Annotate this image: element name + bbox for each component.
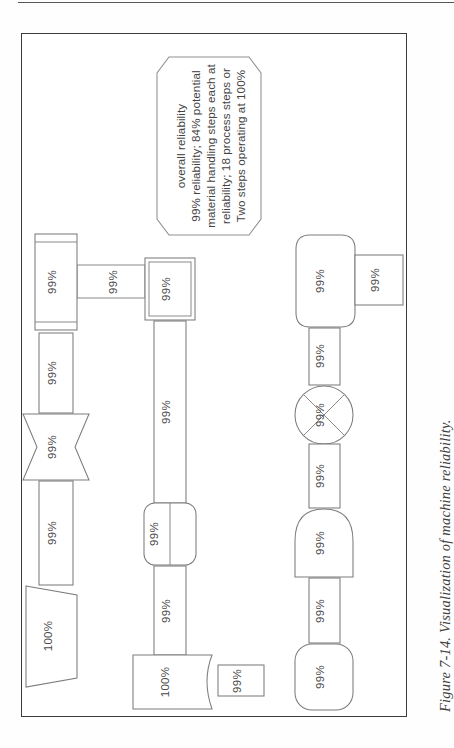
branch-r3-b1[interactable]: 99% (355, 255, 403, 305)
node-r3-n4[interactable]: 99% (309, 444, 340, 508)
node-r1-n1[interactable]: 99% (35, 234, 77, 330)
callout-line-5: overall reliability (174, 104, 187, 188)
reliability-diagram: 99% 99% 99% 99% (21, 33, 407, 717)
callout-line-4: 99% reliability; 84% potential (189, 70, 202, 221)
figure-caption: Figure 7-14. Visualization of machine re… (437, 382, 454, 712)
reliability-callout: Two steps operating at 100% reliability;… (157, 57, 261, 235)
node-r2-n2[interactable]: 99% (154, 321, 186, 503)
branch-r2-b1[interactable]: 99% (218, 665, 264, 696)
node-r1-n3[interactable]: 99% (23, 414, 89, 480)
node-r2-n1[interactable]: 99% (145, 258, 195, 320)
page-header-rule (18, 2, 454, 3)
node-r3-n1[interactable]: 99% (296, 235, 355, 327)
node-label: 99% (46, 270, 58, 294)
node-label: 100% (42, 621, 54, 652)
node-label: 99% (46, 361, 58, 385)
node-r2-n3[interactable]: 99% (144, 503, 196, 565)
branch-label: 99% (107, 270, 119, 294)
node-label: 99% (314, 464, 326, 488)
node-r1-n2[interactable]: 99% (39, 333, 73, 413)
node-label: 99% (148, 522, 160, 546)
branch-label: 99% (369, 268, 381, 292)
node-label: 99% (314, 403, 326, 427)
node-label: 99% (314, 665, 326, 689)
node-label: 100% (159, 667, 171, 698)
node-r2-n5[interactable]: 100% (133, 655, 212, 709)
node-label: 99% (314, 269, 326, 293)
page-canvas: 99% 99% 99% 99% (0, 0, 454, 748)
node-r1-n4[interactable]: 99% (39, 481, 73, 585)
branch-label: 99% (231, 669, 243, 693)
row-2-group: 99% 99% 99% 99% (133, 258, 264, 709)
node-label: 99% (46, 521, 58, 545)
node-label: 99% (160, 400, 172, 424)
row-1-group: 99% 99% 99% 99% (23, 234, 147, 687)
node-label: 99% (46, 435, 58, 459)
node-label: 99% (314, 531, 326, 555)
node-r1-n5[interactable]: 100% (26, 586, 77, 687)
node-label: 99% (314, 344, 326, 368)
node-label: 99% (160, 277, 172, 301)
callout-line-1: Two steps operating at 100% (234, 70, 247, 222)
node-r3-n3[interactable]: 99% (295, 386, 353, 444)
row-3-group: 99% 99% 99% 99% (295, 235, 403, 710)
callout-line-3: material handling steps each at (204, 64, 217, 228)
node-r3-n7[interactable]: 99% (295, 644, 353, 710)
node-label: 99% (160, 599, 172, 623)
callout-line-2: reliability; 18 process steps or (219, 68, 232, 224)
node-r3-n2[interactable]: 99% (309, 328, 340, 385)
node-r2-n4[interactable]: 99% (154, 566, 186, 655)
node-r3-n5[interactable]: 99% (295, 509, 353, 577)
node-label: 99% (314, 599, 326, 623)
node-r3-n6[interactable]: 99% (309, 578, 340, 643)
